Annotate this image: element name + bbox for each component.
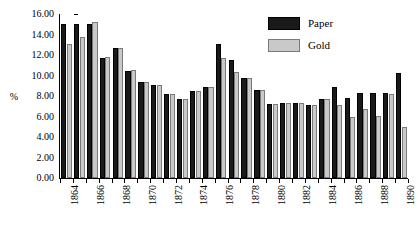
x-tick-mark	[189, 179, 190, 183]
legend-item: Gold	[268, 36, 378, 54]
x-tick-mark	[73, 179, 74, 183]
x-tick-mark	[124, 179, 125, 183]
bar-group	[151, 14, 162, 178]
bar-group	[383, 14, 394, 178]
bar-group	[396, 14, 407, 178]
x-tick-label: 1868	[122, 185, 132, 205]
bar-gold	[157, 85, 162, 178]
bar-group	[254, 14, 265, 178]
x-tick-mark	[215, 179, 216, 183]
bar-gold	[183, 99, 188, 178]
x-tick-mark	[137, 179, 138, 183]
bar-gold	[324, 99, 329, 178]
y-tick-label: 10.00	[18, 71, 54, 81]
y-tick-label: 12.00	[18, 50, 54, 60]
x-tick-mark	[99, 179, 100, 183]
gold-swatch	[268, 39, 300, 52]
bar-paper	[203, 87, 208, 178]
x-tick-mark	[292, 179, 293, 183]
bar-paper	[345, 98, 350, 178]
x-tick-label: 1882	[302, 185, 312, 205]
bar-group	[61, 14, 72, 178]
bar-paper	[241, 78, 246, 178]
bar-paper	[306, 105, 311, 178]
y-tick-label: 4.00	[18, 132, 54, 142]
x-tick-label: 1866	[96, 185, 106, 205]
x-tick-mark	[60, 179, 61, 183]
x-tick-mark	[305, 179, 306, 183]
bar-gold	[337, 105, 342, 178]
y-tick-label: 0.00	[18, 173, 54, 183]
bar-group	[216, 14, 227, 178]
bar-gold	[105, 57, 110, 178]
x-tick-mark	[202, 179, 203, 183]
x-tick-mark	[369, 179, 370, 183]
bar-gold	[286, 103, 291, 178]
paper-swatch	[268, 17, 300, 30]
x-tick-mark	[318, 179, 319, 183]
bar-paper	[280, 103, 285, 178]
bar-group	[241, 14, 252, 178]
bar-paper	[138, 82, 143, 178]
x-axis-tick-labels: 1864186618681870187218741876187818801882…	[60, 185, 408, 225]
bar-gold	[92, 22, 97, 178]
x-tick-label: 1884	[328, 185, 338, 205]
chart-legend: PaperGold	[268, 14, 378, 58]
x-tick-mark	[395, 179, 396, 183]
y-axis-title: %	[2, 92, 18, 102]
bar-gold	[170, 94, 175, 178]
x-tick-mark	[253, 179, 254, 183]
bar-gold	[80, 37, 85, 178]
legend-label: Paper	[308, 18, 333, 29]
bar-paper	[190, 91, 195, 178]
x-tick-mark	[331, 179, 332, 183]
bar-group	[229, 14, 240, 178]
bar-paper	[370, 93, 375, 178]
bar-gold	[144, 82, 149, 178]
bar-group	[74, 14, 85, 178]
y-tick-label: 6.00	[18, 112, 54, 122]
bar-group	[164, 14, 175, 178]
x-tick-mark	[163, 179, 164, 183]
bar-paper	[87, 24, 92, 178]
legend-item: Paper	[268, 14, 378, 32]
bar-gold	[208, 87, 213, 178]
x-tick-label: 1888	[380, 185, 390, 205]
x-tick-label: 1886	[354, 185, 364, 205]
bar-paper	[396, 73, 401, 178]
bar-paper	[100, 58, 105, 178]
bar-gold	[118, 48, 123, 178]
bar-group	[190, 14, 201, 178]
bar-gold	[376, 116, 381, 178]
y-tick-label: 2.00	[18, 153, 54, 163]
x-tick-label: 1870	[148, 185, 158, 205]
bar-group	[138, 14, 149, 178]
bar-gold	[131, 70, 136, 178]
x-tick-label: 1876	[225, 185, 235, 205]
bar-paper	[357, 93, 362, 178]
y-tick-label: 8.00	[18, 91, 54, 101]
bar-gold	[273, 104, 278, 178]
x-tick-mark	[279, 179, 280, 183]
bar-gold	[299, 103, 304, 178]
bar-group	[125, 14, 136, 178]
bar-paper	[216, 44, 221, 178]
x-tick-label: 1872	[174, 185, 184, 205]
bar-paper	[293, 103, 298, 178]
bar-paper	[332, 87, 337, 178]
x-tick-label: 1878	[251, 185, 261, 205]
bar-paper	[229, 60, 234, 178]
x-tick-mark	[266, 179, 267, 183]
bar-group	[177, 14, 188, 178]
bar-group	[100, 14, 111, 178]
bar-gold	[363, 109, 368, 178]
x-tick-mark	[240, 179, 241, 183]
bar-paper	[151, 85, 156, 178]
y-axis-tick-labels: 16.0014.0012.0010.008.006.004.002.000.00	[18, 14, 54, 178]
x-tick-label: 1864	[70, 185, 80, 205]
bar-gold	[67, 44, 72, 178]
bar-group	[203, 14, 214, 178]
bar-paper	[383, 93, 388, 178]
bar-gold	[221, 58, 226, 178]
x-tick-mark	[356, 179, 357, 183]
